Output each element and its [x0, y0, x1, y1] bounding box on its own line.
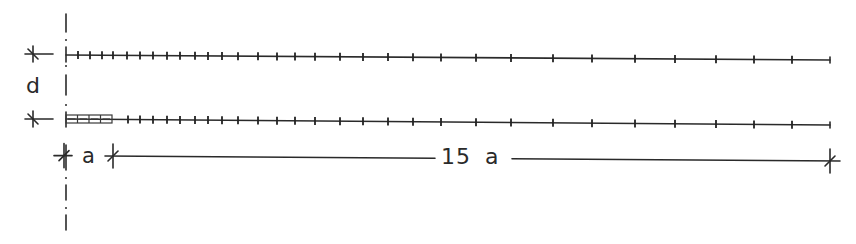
depth-label: d	[26, 75, 40, 97]
centerline-dot	[65, 177, 67, 179]
bottom-member	[66, 112, 830, 129]
hatched-end-block	[66, 115, 112, 123]
top-member	[66, 47, 830, 64]
centerline-dot	[65, 39, 67, 41]
span-dimension-line-right	[512, 159, 840, 161]
remaining-span-label: 15 a	[441, 146, 499, 168]
first-spacing-label: a	[82, 146, 95, 167]
beam-spacing-diagram: d a 15 a	[0, 0, 856, 244]
span-dimension-line-left	[105, 156, 435, 158]
centerline-dot	[65, 65, 67, 67]
centerline-dot	[65, 207, 67, 209]
centerline-dot	[65, 104, 67, 106]
diagram-canvas	[0, 0, 856, 244]
